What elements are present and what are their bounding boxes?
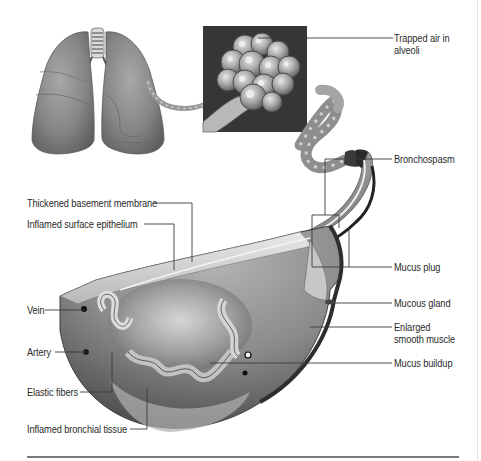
label-inflamed-surface-epithelium: Inflamed surface epithelium <box>27 218 138 230</box>
lungs-illustration <box>32 28 164 154</box>
label-mucus-plug: Mucus plug <box>394 261 440 273</box>
label-trapped-air: Trapped air in alveoli <box>394 32 449 56</box>
label-vein: Vein <box>27 304 45 316</box>
bottom-rule <box>27 456 459 458</box>
label-bronchospasm: Bronchospasm <box>394 153 455 165</box>
alveoli-cluster-inset <box>203 26 307 132</box>
label-elastic-fibers: Elastic fibers <box>27 386 78 398</box>
label-enlarged-smooth-muscle: Enlarged smooth muscle <box>394 321 455 345</box>
bronchus-cross-section <box>60 226 342 432</box>
label-mucus-buildup: Mucus buildup <box>394 357 452 369</box>
label-thickened-basement-membrane: Thickened basement membrane <box>27 197 157 209</box>
label-inflamed-bronchial-tissue: Inflamed bronchial tissue <box>27 423 127 435</box>
page-edge <box>477 0 478 461</box>
label-artery: Artery <box>27 346 51 358</box>
label-mucous-gland: Mucous gland <box>394 297 450 309</box>
